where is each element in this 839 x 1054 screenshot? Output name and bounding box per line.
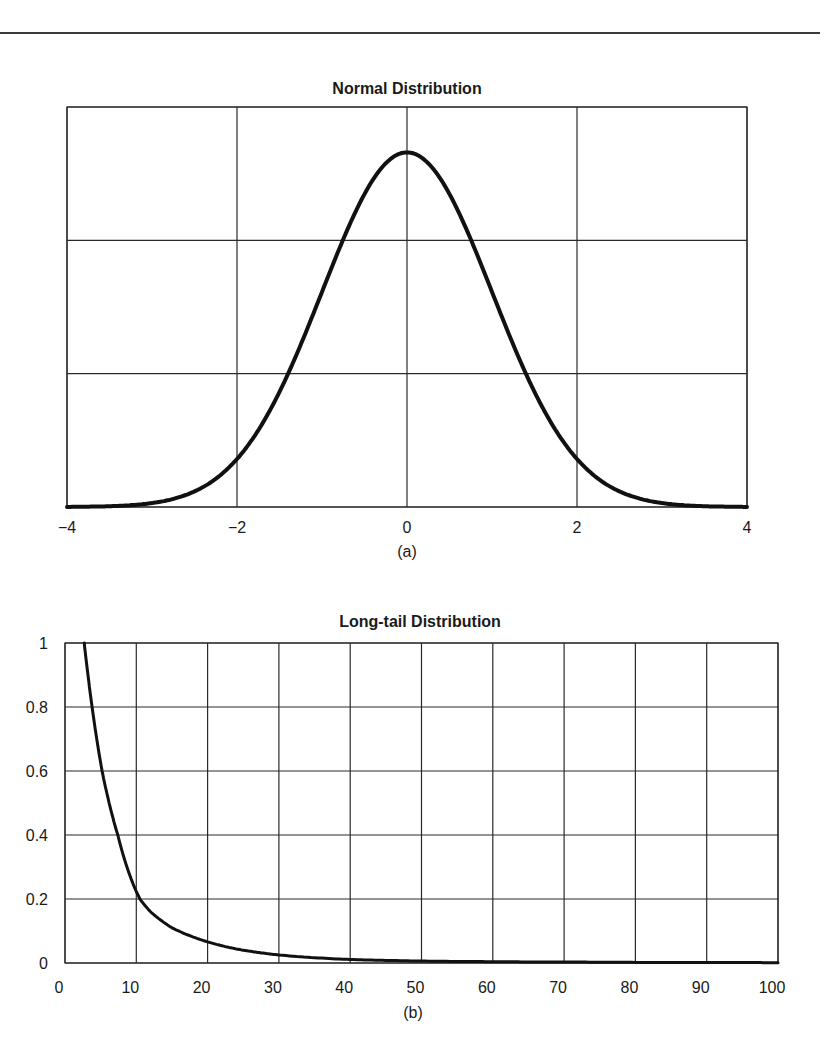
x-axis-ticks: 0102030405060708090100 [55,979,786,996]
normal-distribution-chart: Normal Distribution −4−2024 (a) [58,80,752,560]
chart-title: Long-tail Distribution [339,613,501,630]
x-tick-label: 0 [55,979,64,996]
x-tick-label: −4 [58,519,76,536]
y-tick-label: 0.6 [26,763,48,780]
figure: Normal Distribution −4−2024 (a) Long-tai… [0,0,839,1054]
x-tick-label: 50 [407,979,425,996]
x-tick-label: −2 [228,519,246,536]
x-tick-label: 30 [264,979,282,996]
x-tick-label: 20 [193,979,211,996]
y-axis-ticks: 00.20.40.60.81 [26,635,48,972]
x-tick-label: 90 [692,979,710,996]
x-tick-label: 80 [621,979,639,996]
x-tick-label: 70 [549,979,567,996]
y-tick-label: 0.2 [26,891,48,908]
y-tick-label: 0.8 [26,699,48,716]
x-tick-label: 4 [743,519,752,536]
chart-caption: (b) [403,1004,423,1021]
x-tick-label: 0 [403,519,412,536]
x-tick-label: 2 [573,519,582,536]
long-tail-curve [84,643,778,963]
y-tick-label: 1 [39,635,48,652]
x-tick-label: 60 [478,979,496,996]
grid [67,107,747,507]
x-tick-label: 10 [121,979,139,996]
chart-caption: (a) [397,543,417,560]
x-tick-label: 40 [335,979,353,996]
chart-title: Normal Distribution [332,80,481,97]
y-tick-label: 0 [39,955,48,972]
grid [65,643,778,963]
x-axis-ticks: −4−2024 [58,519,752,536]
long-tail-distribution-chart: Long-tail Distribution 01020304050607080… [26,613,786,1021]
y-tick-label: 0.4 [26,827,48,844]
x-tick-label: 100 [759,979,786,996]
